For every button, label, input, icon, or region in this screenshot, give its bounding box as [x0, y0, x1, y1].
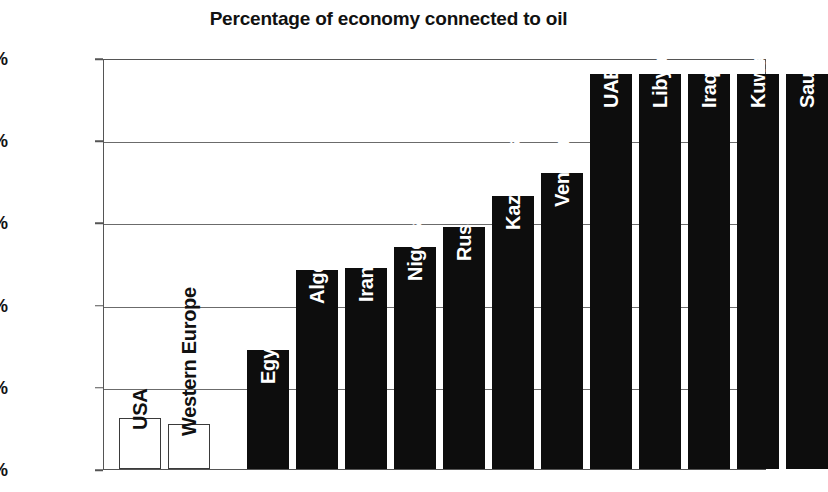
y-tick-label: 100% — [0, 49, 8, 70]
bar-label: Western Europe — [179, 287, 199, 436]
plot-area: USAWestern EuropeEgyptAlgeriaIranNigeria… — [103, 59, 766, 470]
y-tick-label: 20% — [0, 377, 8, 398]
bar[interactable] — [786, 74, 828, 469]
bar[interactable] — [688, 74, 730, 469]
y-tick-label: 0% — [0, 460, 8, 481]
bar-label: Kuwait — [748, 45, 768, 109]
bar-label: USA — [130, 388, 150, 429]
y-tick-label: 60% — [0, 213, 8, 234]
bar-label: Kazakhstan — [503, 122, 523, 230]
bar-label: Algeria — [307, 238, 327, 304]
bar-label: UAE — [601, 67, 621, 108]
bar-label: Venezuela — [552, 113, 572, 207]
y-tick-label: 40% — [0, 295, 8, 316]
y-tick-mark — [95, 140, 103, 142]
bar-label: Iran — [356, 266, 376, 301]
bar[interactable] — [541, 173, 583, 469]
bar[interactable] — [443, 227, 485, 469]
chart-title: Percentage of economy connected to oil — [0, 8, 777, 30]
bar[interactable] — [639, 74, 681, 469]
bar-label: Egypt — [258, 330, 278, 384]
y-tick-mark — [95, 469, 103, 471]
bar-label: Libya — [650, 58, 670, 109]
y-tick-mark — [95, 387, 103, 389]
bar[interactable] — [492, 196, 534, 469]
bar-label: Russia — [454, 197, 474, 261]
bar[interactable] — [737, 74, 779, 469]
bar-label: Saudi Arabia — [797, 0, 817, 108]
bars-layer: USAWestern EuropeEgyptAlgeriaIranNigeria… — [104, 60, 765, 469]
y-tick-label: 80% — [0, 131, 8, 152]
y-tick-mark — [95, 58, 103, 60]
bar-label: Iraq — [699, 73, 719, 108]
y-axis: 0%20%40%60%80%100% — [0, 0, 103, 492]
y-tick-mark — [95, 223, 103, 225]
bar[interactable] — [590, 74, 632, 469]
y-tick-mark — [95, 305, 103, 307]
bar-label: Nigeria — [405, 215, 425, 281]
